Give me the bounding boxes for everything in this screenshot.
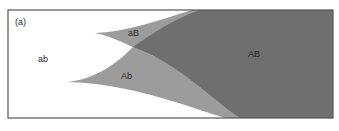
muller-plot bbox=[0, 0, 339, 131]
region-label-Ab: Ab bbox=[121, 72, 132, 81]
panel-label: (a) bbox=[15, 18, 26, 27]
region-label-ab: ab bbox=[38, 55, 48, 64]
region-label-aB: aB bbox=[128, 29, 139, 38]
region-label-AB: AB bbox=[248, 50, 260, 59]
